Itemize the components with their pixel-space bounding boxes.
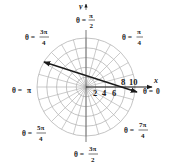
angle-label-pi-over-2: θ = π 2: [74, 10, 98, 30]
svg-text:θ =: θ =: [76, 16, 86, 25]
svg-text:π: π: [137, 28, 141, 36]
angle-label-3pi-over-2: θ = 3π 2: [72, 142, 100, 166]
svg-text:θ =: θ =: [74, 150, 84, 159]
svg-text:2: 2: [90, 22, 94, 30]
svg-text:θ =: θ =: [12, 86, 22, 95]
svg-text:4: 4: [39, 135, 43, 143]
svg-text:θ =: θ =: [25, 33, 35, 42]
svg-text:7π: 7π: [139, 121, 147, 129]
svg-text:0: 0: [156, 87, 160, 96]
tick-2: 2: [93, 88, 97, 98]
x-axis-label: x: [153, 76, 158, 85]
angle-label-pi: θ = π: [12, 86, 32, 95]
angle-label-pi-over-4: θ = π 4: [122, 28, 143, 47]
angle-label-zero: θ = 0: [143, 87, 160, 96]
svg-text:π: π: [27, 86, 32, 95]
svg-text:π: π: [89, 12, 93, 20]
angle-label-3pi-over-4: θ = 3π 4: [25, 28, 49, 47]
tick-8: 8: [121, 77, 125, 87]
svg-text:3π: 3π: [89, 145, 97, 153]
svg-text:5π: 5π: [37, 124, 45, 132]
svg-text:4: 4: [138, 39, 142, 47]
polar-diagram: y x 2 4 6 8 10 θ = π 2 θ = 3π 4 θ = π 4 …: [0, 0, 172, 168]
angle-label-5pi-over-4: θ = 5π 4: [22, 124, 46, 143]
tick-10: 10: [129, 77, 138, 87]
tick-6: 6: [112, 88, 116, 98]
svg-text:2: 2: [91, 156, 95, 164]
svg-text:θ =: θ =: [122, 33, 132, 42]
y-axis-label: y: [78, 2, 83, 11]
svg-text:4: 4: [42, 39, 46, 47]
svg-text:θ =: θ =: [22, 129, 32, 138]
svg-text:θ =: θ =: [124, 126, 134, 135]
tick-4: 4: [102, 88, 107, 98]
svg-text:θ =: θ =: [143, 87, 153, 96]
svg-text:4: 4: [141, 132, 145, 140]
svg-text:3π: 3π: [40, 28, 48, 36]
angle-label-7pi-over-4: θ = 7π 4: [124, 121, 148, 140]
